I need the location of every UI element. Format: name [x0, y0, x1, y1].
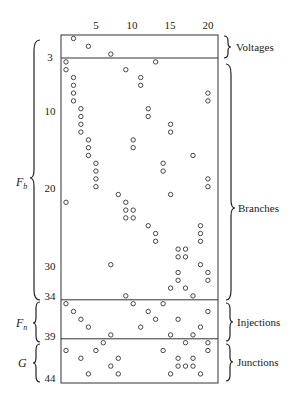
- nonzero-marker: [176, 247, 180, 251]
- nonzero-marker: [206, 348, 210, 352]
- left-braces: [30, 40, 40, 382]
- nonzero-marker: [176, 317, 180, 321]
- nonzero-marker: [124, 68, 128, 72]
- nonzero-marker: [124, 200, 128, 204]
- nonzero-marker: [116, 192, 120, 196]
- row-ticks: 3 10 20 30 34 39 44: [45, 51, 57, 384]
- nonzero-marker: [86, 372, 90, 376]
- nonzero-marker: [79, 130, 83, 134]
- brace-branches: [226, 64, 235, 300]
- nonzero-marker: [124, 216, 128, 220]
- label-fb: Fb: [15, 175, 27, 191]
- nonzero-marker: [168, 130, 172, 134]
- x-tick-15: 15: [165, 19, 177, 31]
- nonzero-marker: [161, 302, 165, 306]
- nonzero-marker: [109, 52, 113, 56]
- nonzero-marker: [161, 348, 165, 352]
- nonzero-marker: [79, 114, 83, 118]
- x-tick-5: 5: [93, 19, 99, 31]
- brace-fn: [33, 302, 40, 342]
- brace-injections: [226, 303, 233, 341]
- sparsity-pattern-figure: 5 10 15 20 3 10 20 30 34 39 44 Fb Fn G V…: [0, 0, 293, 401]
- nonzero-marker: [79, 107, 83, 111]
- nonzero-marker: [146, 224, 150, 228]
- nonzero-marker: [109, 333, 113, 337]
- nonzero-marker: [206, 99, 210, 103]
- nonzero-marker: [71, 309, 75, 313]
- label-fn: Fn: [15, 316, 27, 332]
- nonzero-marker: [191, 364, 195, 368]
- y-tick-20: 20: [45, 182, 57, 194]
- nonzero-marker: [191, 153, 195, 157]
- right-braces: [224, 36, 235, 381]
- nonzero-marker: [109, 364, 113, 368]
- nonzero-marker: [198, 372, 202, 376]
- nonzero-marker: [176, 270, 180, 274]
- nonzero-marker: [153, 60, 157, 64]
- nonzero-marker: [153, 239, 157, 243]
- label-injections: Injections: [237, 316, 280, 328]
- nonzero-marker: [64, 302, 68, 306]
- nonzero-marker: [86, 44, 90, 48]
- nonzero-marker: [139, 325, 143, 329]
- nonzero-marker: [86, 325, 90, 329]
- y-tick-39: 39: [45, 330, 57, 342]
- nonzero-marker: [146, 107, 150, 111]
- nonzero-marker: [79, 122, 83, 126]
- nonzero-marker: [124, 294, 128, 298]
- nonzero-marker: [198, 263, 202, 267]
- nonzero-marker: [109, 263, 113, 267]
- y-tick-44: 44: [45, 372, 57, 384]
- nonzero-marker: [146, 114, 150, 118]
- nonzero-marker: [116, 356, 120, 360]
- brace-g: [33, 344, 40, 382]
- nonzero-marker: [176, 255, 180, 259]
- nonzero-marker: [198, 239, 202, 243]
- x-tick-20: 20: [203, 19, 215, 31]
- nonzero-marker: [79, 356, 83, 360]
- y-tick-30: 30: [45, 260, 57, 272]
- nonzero-marker: [64, 200, 68, 204]
- nonzero-marker: [79, 317, 83, 321]
- nonzero-marker: [139, 83, 143, 87]
- nonzero-marker: [191, 294, 195, 298]
- nonzero-marker: [71, 99, 75, 103]
- x-tick-10: 10: [127, 19, 139, 31]
- nonzero-marker: [86, 153, 90, 157]
- nonzero-marker: [198, 224, 202, 228]
- nonzero-marker: [206, 177, 210, 181]
- nonzero-marker: [183, 255, 187, 259]
- nonzero-marker: [153, 317, 157, 321]
- label-voltages: Voltages: [236, 41, 274, 53]
- nonzero-marker: [183, 364, 187, 368]
- nonzero-marker: [198, 231, 202, 235]
- nonzero-marker: [71, 83, 75, 87]
- nonzero-marker: [206, 278, 210, 282]
- nonzero-markers: [64, 36, 210, 376]
- nonzero-marker: [101, 341, 105, 345]
- column-ticks: 5 10 15 20: [93, 19, 214, 31]
- nonzero-marker: [191, 333, 195, 337]
- nonzero-marker: [94, 348, 98, 352]
- nonzero-marker: [116, 372, 120, 376]
- label-junctions: Junctions: [237, 356, 279, 368]
- left-labels: Fb Fn G: [15, 175, 27, 370]
- nonzero-marker: [161, 161, 165, 165]
- nonzero-marker: [176, 356, 180, 360]
- y-tick-3: 3: [47, 51, 53, 63]
- nonzero-marker: [183, 247, 187, 251]
- nonzero-marker: [64, 68, 68, 72]
- nonzero-marker: [146, 309, 150, 313]
- right-labels: Voltages Branches Injections Junctions: [236, 41, 280, 368]
- nonzero-marker: [124, 208, 128, 212]
- nonzero-marker: [131, 208, 135, 212]
- nonzero-marker: [168, 372, 172, 376]
- nonzero-marker: [183, 286, 187, 290]
- nonzero-marker: [161, 169, 165, 173]
- nonzero-marker: [206, 341, 210, 345]
- nonzero-marker: [206, 309, 210, 313]
- brace-junctions: [226, 344, 233, 381]
- nonzero-marker: [86, 146, 90, 150]
- nonzero-marker: [198, 325, 202, 329]
- nonzero-marker: [168, 122, 172, 126]
